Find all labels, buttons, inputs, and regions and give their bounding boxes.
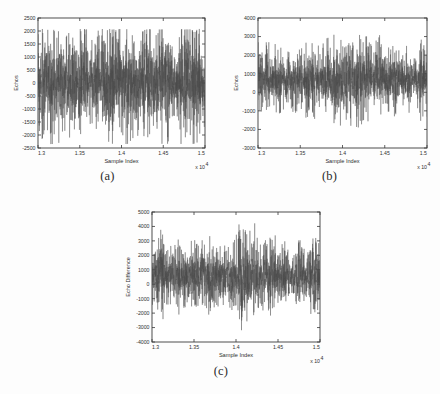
panel-c-caption: (c) [112, 364, 330, 379]
x-tick-label: 1.3 [258, 150, 265, 156]
y-tick-label: 3000 [244, 33, 256, 39]
x-tick-label: 1.5 [420, 150, 427, 156]
panel-a-svg: -2500-2000-1500-1000-5000500100015002000… [0, 4, 215, 174]
y-tick-label: 2500 [24, 15, 36, 21]
panel-b-plot: -3000-2000-1000010002000300040001.31.351… [222, 4, 437, 174]
y-tick-label: -1500 [22, 119, 35, 125]
y-tick-label: -1000 [136, 296, 149, 302]
x-tick-label: 1.45 [273, 344, 283, 350]
y-tick-label: 2000 [244, 52, 256, 58]
y-tick-label: -3000 [242, 145, 255, 151]
x-tick-label: 1.5 [313, 344, 320, 350]
y-tick-label: -1000 [22, 106, 35, 112]
y-tick-label: 0 [147, 281, 150, 287]
x-tick-label: 1.3 [152, 344, 159, 350]
panel-c: -4000-3000-2000-100001000200030004000500… [112, 198, 330, 394]
x-tick-label: 1.35 [295, 150, 305, 156]
panel-b: -3000-2000-1000010002000300040001.31.351… [222, 4, 437, 194]
x-tick-label: 1.45 [158, 150, 168, 156]
y-axis-label: Echo Difference [125, 257, 131, 297]
x-tick-label: 1.45 [380, 150, 390, 156]
x-tick-label: 1.35 [75, 150, 85, 156]
y-tick-label: -3000 [136, 324, 149, 330]
y-tick-label: -4000 [136, 339, 149, 345]
panel-c-svg: -4000-3000-2000-100001000200030004000500… [112, 198, 330, 370]
panel-a-plot: -2500-2000-1500-1000-5000500100015002000… [0, 4, 215, 174]
panel-b-svg: -3000-2000-1000010002000300040001.31.351… [222, 4, 437, 174]
x-axis-label: Sample Index [219, 352, 253, 358]
y-tick-label: 3000 [138, 238, 150, 244]
y-tick-label: -2000 [242, 126, 255, 132]
y-tick-label: -500 [25, 93, 35, 99]
y-tick-label: 4000 [138, 223, 150, 229]
y-tick-label: 1000 [244, 71, 256, 77]
x-axis-exponent-superscript: 4 [206, 161, 209, 167]
x-axis-label: Sample Index [325, 158, 359, 164]
x-tick-label: 1.4 [118, 150, 125, 156]
x-tick-label: 1.4 [339, 150, 346, 156]
x-tick-label: 1.3 [38, 150, 45, 156]
y-tick-label: 5000 [138, 209, 150, 215]
y-tick-label: 0 [253, 89, 256, 95]
x-tick-label: 1.35 [189, 344, 199, 350]
panel-a-caption: (a) [0, 169, 215, 184]
y-tick-label: -2000 [22, 132, 35, 138]
y-tick-label: -1000 [242, 108, 255, 114]
x-axis-exponent-superscript: 4 [428, 161, 431, 167]
y-tick-label: -2500 [22, 145, 35, 151]
y-tick-label: -2000 [136, 310, 149, 316]
panel-b-caption: (b) [222, 169, 437, 184]
y-axis-label: Echos [13, 75, 19, 91]
panel-c-plot: -4000-3000-2000-100001000200030004000500… [112, 198, 330, 370]
y-tick-label: 500 [27, 67, 36, 73]
x-axis-exponent-superscript: 4 [321, 355, 324, 361]
y-tick-label: 1500 [24, 41, 36, 47]
y-tick-label: 4000 [244, 15, 256, 21]
y-tick-label: 0 [33, 80, 36, 86]
y-tick-label: 2000 [138, 252, 150, 258]
x-axis-label: Sample Index [104, 158, 138, 164]
y-tick-label: 1000 [24, 54, 36, 60]
y-axis-label: Echos [233, 75, 239, 91]
y-tick-label: 2000 [24, 28, 36, 34]
figure-root: -2500-2000-1500-1000-5000500100015002000… [0, 0, 440, 394]
x-tick-label: 1.4 [232, 344, 239, 350]
panel-a: -2500-2000-1500-1000-5000500100015002000… [0, 4, 215, 194]
y-tick-label: 1000 [138, 267, 150, 273]
x-tick-label: 1.5 [198, 150, 205, 156]
